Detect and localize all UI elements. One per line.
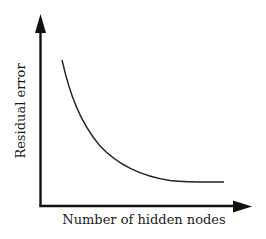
x-axis-label: Number of hidden nodes [62,212,225,227]
y-axis-label: Residual error [13,63,28,159]
residual-error-curve [62,60,224,182]
error-vs-hidden-nodes-diagram: Residual error Number of hidden nodes [0,0,266,239]
y-axis-arrow-icon [35,14,46,33]
x-axis-arrow-icon [233,201,252,213]
